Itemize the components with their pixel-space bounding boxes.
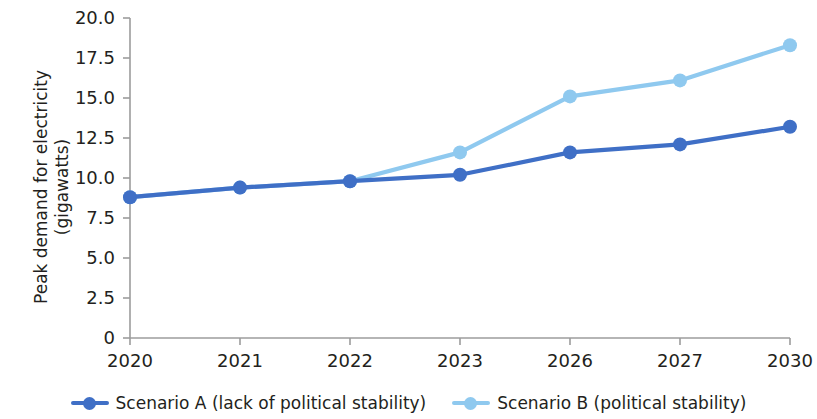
data-point bbox=[673, 137, 687, 151]
legend-marker-icon bbox=[452, 395, 490, 411]
data-point bbox=[343, 174, 357, 188]
legend-label: Scenario B (political stability) bbox=[497, 393, 746, 413]
data-point bbox=[783, 38, 797, 52]
data-point bbox=[563, 145, 577, 159]
data-point bbox=[233, 181, 247, 195]
legend-marker-icon bbox=[71, 395, 109, 411]
x-axis-tick-label: 2022 bbox=[327, 350, 373, 372]
series-scenario-a bbox=[123, 120, 797, 204]
legend-label: Scenario A (lack of political stability) bbox=[116, 393, 427, 413]
x-axis-tick-label: 2030 bbox=[767, 350, 813, 372]
data-point bbox=[453, 168, 467, 182]
chart-legend: Scenario A (lack of political stability)… bbox=[0, 386, 817, 419]
data-point bbox=[453, 145, 467, 159]
series-line bbox=[130, 127, 790, 197]
x-axis-tick-label: 2020 bbox=[107, 350, 153, 372]
data-point bbox=[123, 190, 137, 204]
legend-item[interactable]: Scenario A (lack of political stability) bbox=[71, 393, 427, 413]
data-point bbox=[563, 89, 577, 103]
data-point bbox=[673, 73, 687, 87]
x-axis-tick-label: 2026 bbox=[547, 350, 593, 372]
x-axis-tick-labels: 2020202120222023202620272030 bbox=[0, 350, 817, 384]
x-axis-tick-label: 2027 bbox=[657, 350, 703, 372]
x-axis-tick-label: 2023 bbox=[437, 350, 483, 372]
legend-item[interactable]: Scenario B (political stability) bbox=[452, 393, 746, 413]
x-axis-tick-label: 2021 bbox=[217, 350, 263, 372]
line-chart: Peak demand for electricity (gigawatts) … bbox=[0, 0, 817, 419]
data-point bbox=[783, 120, 797, 134]
